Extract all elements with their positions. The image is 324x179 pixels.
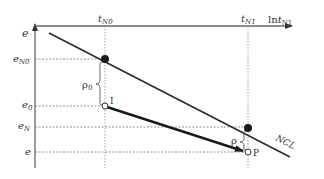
x-axis-label: lntN1 [268,14,292,27]
rho0-brace [96,62,103,105]
point-P-label: P [253,148,259,158]
horizontal-guides [35,59,248,152]
tick-tN1: tN1 [241,13,256,26]
rho-label: ρ [231,135,237,146]
tick-e0: e0 [22,99,33,112]
ncl-label: NCL [273,132,297,151]
rho0-label: ρ0 [82,79,92,92]
y-axis-label: e [22,27,29,40]
tick-tN0: tN0 [98,13,113,26]
point-tN0-eN0 [101,55,109,63]
point-I [102,103,108,109]
ncl-line [49,33,290,157]
tick-e: e [25,146,31,157]
point-tN1-eN [244,124,252,132]
tick-eN0: eN0 [13,53,30,66]
tick-eN: eN [18,120,31,133]
path-I-to-P [107,107,243,151]
points [101,55,252,155]
e-lnt-diagram: e lntN1 tN0 tN1 eN0 e0 eN e ρ0 ρ I P NCL [0,0,324,179]
point-I-label: I [110,96,114,106]
point-P [245,149,251,155]
